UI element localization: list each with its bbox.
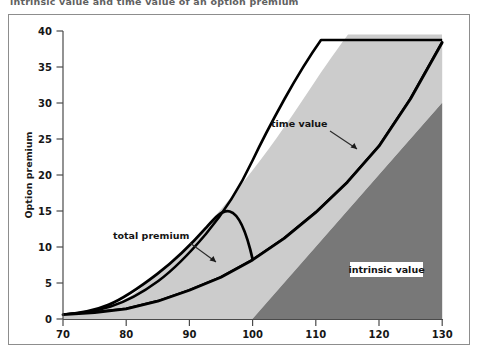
bottom-margin-mask [9,320,469,345]
option-premium-chart: 40 35 30 25 20 15 10 5 0 70 80 90 100 11… [9,15,469,344]
y-tick-label: 0 [45,314,52,325]
y-tick-label: 35 [38,62,52,73]
left-margin-mask [9,15,63,344]
x-tick-label: 80 [119,329,133,340]
y-tick-label: 30 [38,98,52,109]
x-tick-label: 90 [182,329,196,340]
x-tick-label: 120 [369,329,390,340]
right-margin-mask [442,15,469,344]
y-axis-title: Option premium [23,131,34,218]
figure-caption: intrinsic value and time value of an opt… [10,0,430,8]
y-tick-label: 20 [38,170,52,181]
x-tick-label: 110 [305,329,326,340]
y-tick-label: 40 [38,26,52,37]
y-tick-label: 10 [38,242,52,253]
x-axis-title: Underlying price [208,342,297,344]
figure-page: intrinsic value and time value of an opt… [0,0,478,361]
top-margin-mask [9,15,469,31]
intrinsic-value-label: intrinsic value [348,264,424,275]
y-tick-label: 5 [45,278,52,289]
y-tick-label: 25 [38,134,52,145]
figure-frame: 40 35 30 25 20 15 10 5 0 70 80 90 100 11… [8,14,470,345]
annotation-intrinsic-value: intrinsic value [348,262,424,277]
x-tick-label: 130 [432,329,453,340]
y-tick-label: 15 [38,206,52,217]
x-tick-label: 100 [242,329,263,340]
x-tick-label: 70 [56,329,70,340]
total-premium-label: total premium [113,230,189,241]
time-value-label: time value [271,118,328,129]
